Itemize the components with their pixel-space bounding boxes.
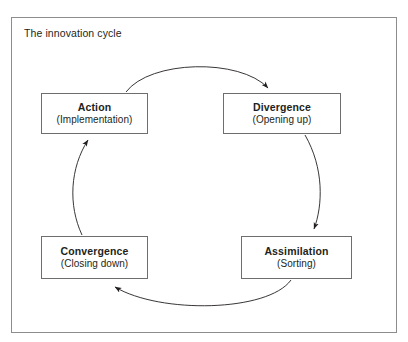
node-divergence[interactable]: Divergence (Opening up) <box>223 93 341 134</box>
node-action-subtitle: (Implementation) <box>57 114 133 126</box>
node-assimilation-subtitle: (Sorting) <box>277 258 316 270</box>
arrow-convergence-to-action <box>73 140 88 235</box>
innovation-cycle-figure: The innovation cycle Action (Implementat… <box>0 0 408 342</box>
node-assimilation[interactable]: Assimilation (Sorting) <box>241 236 352 279</box>
arrow-assimilation-to-convergence <box>115 280 291 306</box>
arrow-action-to-divergence <box>126 67 268 92</box>
node-convergence[interactable]: Convergence (Closing down) <box>41 236 148 279</box>
node-divergence-subtitle: (Opening up) <box>253 114 312 126</box>
cycle-arrows <box>0 0 408 342</box>
node-divergence-title: Divergence <box>253 101 311 113</box>
node-convergence-subtitle: (Closing down) <box>61 258 128 270</box>
node-assimilation-title: Assimilation <box>264 245 328 257</box>
node-action-title: Action <box>78 101 112 113</box>
arrow-divergence-to-assimilation <box>305 135 320 229</box>
node-convergence-title: Convergence <box>60 245 128 257</box>
node-action[interactable]: Action (Implementation) <box>41 93 148 134</box>
